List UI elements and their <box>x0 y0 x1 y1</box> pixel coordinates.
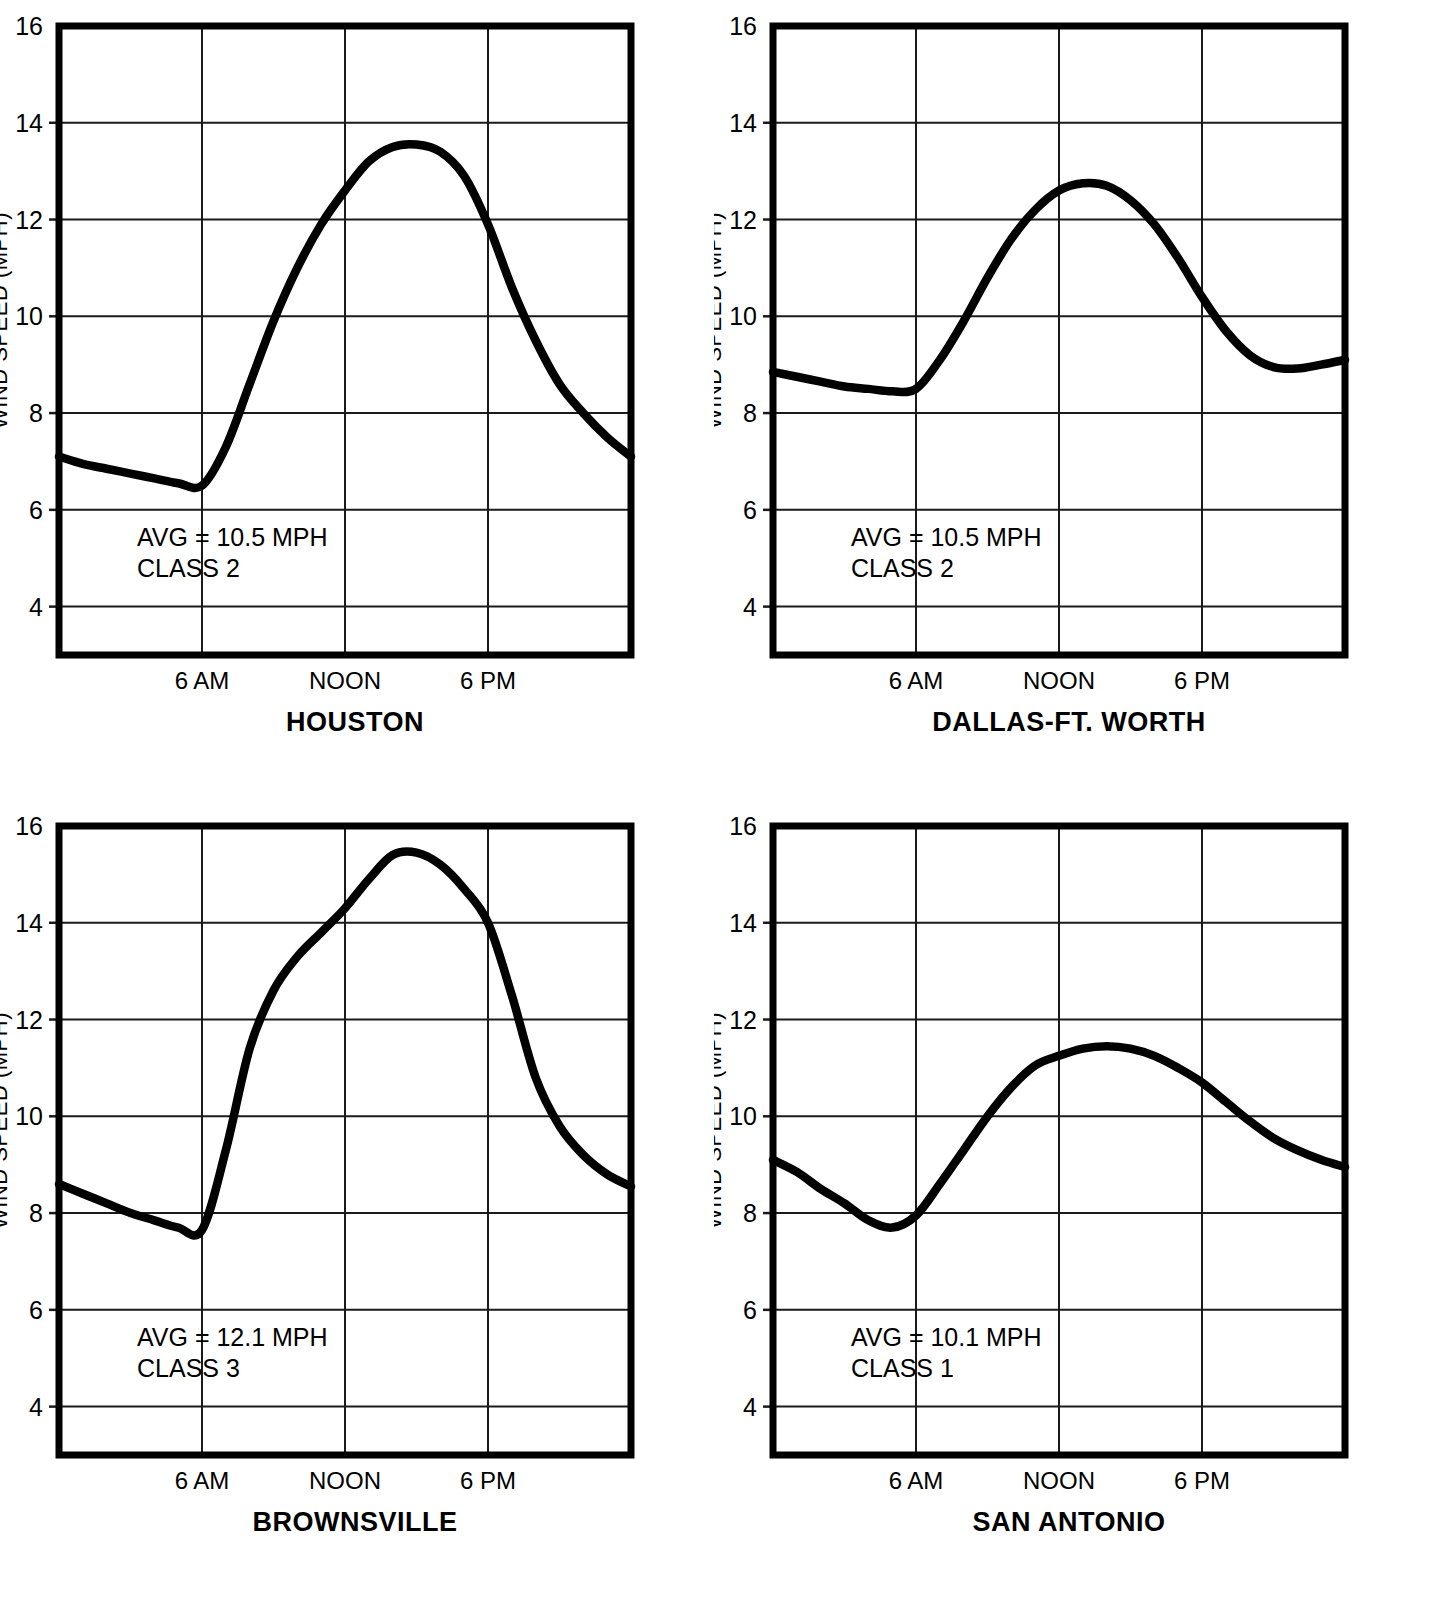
x-tick-label: 6 AM <box>889 1467 944 1494</box>
chart-body-1: 468101214166 AMNOON6 PMAVG = 10.5 MPHCLA… <box>714 12 1345 737</box>
x-tick-label: 6 AM <box>175 667 230 694</box>
x-tick-label: NOON <box>309 1467 381 1494</box>
y-tick-label: 16 <box>15 812 43 840</box>
y-tick-label: 6 <box>743 1296 757 1324</box>
y-tick-label: 6 <box>29 1296 43 1324</box>
y-axis-label: WIND SPEED (MPH) <box>714 1012 726 1229</box>
chart-svg-brownsville: 468101214166 AMNOON6 PMAVG = 12.1 MPHCLA… <box>0 800 714 1617</box>
y-tick-label: 16 <box>15 12 43 40</box>
y-tick-label: 10 <box>15 302 43 330</box>
chart-svg-san-antonio: 468101214166 AMNOON6 PMAVG = 10.1 MPHCLA… <box>714 800 1429 1617</box>
chart-body-3: 468101214166 AMNOON6 PMAVG = 10.1 MPHCLA… <box>714 812 1345 1537</box>
chart-houston: 468101214166 AMNOON6 PMAVG = 10.5 MPHCLA… <box>0 0 714 800</box>
x-tick-label: NOON <box>1023 1467 1095 1494</box>
y-tick-label: 14 <box>15 109 43 137</box>
annotation-class: CLASS 2 <box>137 554 240 582</box>
chart-body-0: 468101214166 AMNOON6 PMAVG = 10.5 MPHCLA… <box>0 12 631 737</box>
y-tick-label: 14 <box>729 109 757 137</box>
y-tick-label: 10 <box>729 302 757 330</box>
y-tick-label: 16 <box>729 812 757 840</box>
x-tick-label: 6 PM <box>460 1467 516 1494</box>
y-axis-label: WIND SPEED (MPH) <box>0 212 12 429</box>
annotation-class: CLASS 3 <box>137 1354 240 1382</box>
y-tick-label: 14 <box>15 909 43 937</box>
chart-title-city: DALLAS-FT. WORTH <box>932 707 1205 737</box>
annotation-class: CLASS 2 <box>851 554 954 582</box>
chart-dallas-ft-worth: 468101214166 AMNOON6 PMAVG = 10.5 MPHCLA… <box>714 0 1429 800</box>
y-tick-label: 14 <box>729 909 757 937</box>
y-tick-label: 4 <box>743 593 757 621</box>
chart-title-city: BROWNSVILLE <box>253 1507 458 1537</box>
y-tick-label: 6 <box>743 496 757 524</box>
chart-svg-houston: 468101214166 AMNOON6 PMAVG = 10.5 MPHCLA… <box>0 0 714 800</box>
y-axis-label: WIND SPEED (MPH) <box>714 212 726 429</box>
x-tick-label: 6 PM <box>460 667 516 694</box>
y-tick-label: 12 <box>15 1006 43 1034</box>
y-tick-label: 10 <box>729 1102 757 1130</box>
y-tick-label: 12 <box>729 1006 757 1034</box>
y-tick-label: 8 <box>29 1199 43 1227</box>
x-tick-label: 6 AM <box>889 667 944 694</box>
chart-panel-brownsville: 468101214166 AMNOON6 PMAVG = 12.1 MPHCLA… <box>0 800 714 1617</box>
chart-san-antonio: 468101214166 AMNOON6 PMAVG = 10.1 MPHCLA… <box>714 800 1429 1617</box>
annotation-average: AVG = 10.5 MPH <box>851 523 1042 551</box>
x-tick-label: 6 PM <box>1174 667 1230 694</box>
chart-panel-san-antonio: 468101214166 AMNOON6 PMAVG = 10.1 MPHCLA… <box>714 800 1429 1617</box>
x-tick-label: 6 AM <box>175 1467 230 1494</box>
y-tick-label: 10 <box>15 1102 43 1130</box>
chart-title-city: HOUSTON <box>286 707 424 737</box>
annotation-average: AVG = 12.1 MPH <box>137 1323 328 1351</box>
y-tick-label: 12 <box>729 206 757 234</box>
chart-panel-houston: 468101214166 AMNOON6 PMAVG = 10.5 MPHCLA… <box>0 0 714 800</box>
chart-brownsville: 468101214166 AMNOON6 PMAVG = 12.1 MPHCLA… <box>0 800 714 1617</box>
x-tick-label: 6 PM <box>1174 1467 1230 1494</box>
x-tick-label: NOON <box>309 667 381 694</box>
chart-panel-dallas-ft-worth: 468101214166 AMNOON6 PMAVG = 10.5 MPHCLA… <box>714 0 1429 800</box>
y-tick-label: 8 <box>743 1199 757 1227</box>
y-tick-label: 4 <box>743 1393 757 1421</box>
y-tick-label: 6 <box>29 496 43 524</box>
y-tick-label: 8 <box>29 399 43 427</box>
chart-title-city: SAN ANTONIO <box>972 1507 1165 1537</box>
chart-svg-dallas-ft-worth: 468101214166 AMNOON6 PMAVG = 10.5 MPHCLA… <box>714 0 1429 800</box>
x-tick-label: NOON <box>1023 667 1095 694</box>
annotation-average: AVG = 10.1 MPH <box>851 1323 1042 1351</box>
y-tick-label: 4 <box>29 1393 43 1421</box>
chart-body-2: 468101214166 AMNOON6 PMAVG = 12.1 MPHCLA… <box>0 812 631 1537</box>
annotation-average: AVG = 10.5 MPH <box>137 523 328 551</box>
y-tick-label: 4 <box>29 593 43 621</box>
y-tick-label: 12 <box>15 206 43 234</box>
annotation-class: CLASS 1 <box>851 1354 954 1382</box>
y-axis-label: WIND SPEED (MPH) <box>0 1012 12 1229</box>
wind-speed-chart-grid: 468101214166 AMNOON6 PMAVG = 10.5 MPHCLA… <box>0 0 1429 1617</box>
y-tick-label: 16 <box>729 12 757 40</box>
y-tick-label: 8 <box>743 399 757 427</box>
